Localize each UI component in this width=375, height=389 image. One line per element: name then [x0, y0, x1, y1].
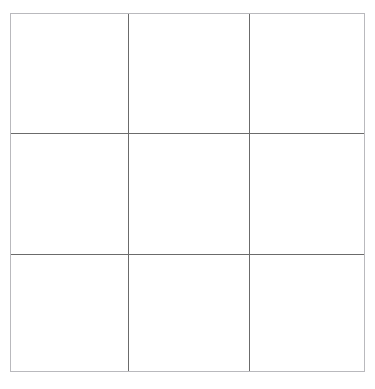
grid-cell-r2c1[interactable]	[11, 133, 128, 253]
grid-cell-r1c3[interactable]	[248, 14, 364, 133]
grid-cell-r3c3[interactable]	[248, 253, 364, 371]
grid-canvas	[0, 0, 375, 389]
grid-cell-r2c3[interactable]	[248, 133, 364, 253]
grid-cells	[11, 14, 364, 371]
grid-cell-r3c1[interactable]	[11, 253, 128, 371]
grid-cell-r1c2[interactable]	[128, 14, 248, 133]
grid-frame	[10, 13, 365, 372]
grid-cell-r3c2[interactable]	[128, 253, 248, 371]
grid-cell-r1c1[interactable]	[11, 14, 128, 133]
grid-cell-r2c2[interactable]	[128, 133, 248, 253]
